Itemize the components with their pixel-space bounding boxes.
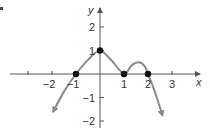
data-point <box>73 71 79 77</box>
data-point <box>145 71 151 77</box>
y-tick-label: −1 <box>82 92 95 104</box>
y-tick-label: −2 <box>82 115 95 127</box>
axes <box>10 8 200 128</box>
x-tick-label: 1 <box>121 78 127 90</box>
data-point <box>121 71 127 77</box>
graph-plot: −2−112321−1−2xy <box>0 0 210 132</box>
x-tick-label: −2 <box>43 78 56 90</box>
x-axis-label: x <box>195 76 202 88</box>
x-tick-label: 3 <box>169 78 175 90</box>
y-tick-label: 2 <box>89 21 95 33</box>
axis-labels: −2−112321−1−2xy <box>43 4 202 127</box>
y-tick-label: 1 <box>89 45 95 57</box>
x-tick-label: 2 <box>145 78 151 90</box>
data-point <box>97 47 103 53</box>
y-axis-label: y <box>87 4 95 16</box>
x-tick-label: −1 <box>67 78 80 90</box>
